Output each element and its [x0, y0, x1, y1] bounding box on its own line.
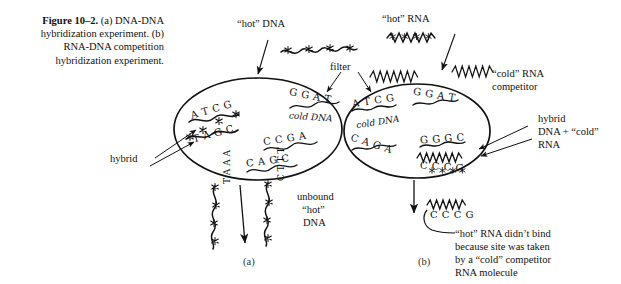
seq-a-unbound-left: T A A A — [222, 150, 233, 184]
filter-arrow-right — [358, 72, 371, 92]
panel-label-b: (b) — [418, 256, 430, 267]
seq-b-output: C C C G — [430, 209, 474, 220]
figure-10-2: Figure 10–2. (a) DNA-DNA hybridization e… — [0, 0, 621, 284]
hybrid-arrow-lower — [150, 142, 194, 166]
label-filter: filter — [330, 60, 350, 73]
explanation-line3: by a “cold” competitor — [455, 253, 551, 266]
label-hybrid-dna-cold-rna-line1: hybrid — [538, 112, 565, 125]
label-cold-rna-competitor-line1: “cold” RNA — [492, 67, 544, 80]
label-hybrid-dna-cold-rna-line2: DNA + “cold” — [538, 125, 599, 138]
unbound-strand-left — [211, 183, 220, 249]
seq-a-unbound-right: C T T T — [276, 148, 287, 181]
figure-caption: Figure 10–2. (a) DNA-DNA hybridization e… — [14, 14, 164, 67]
explanation-line2: because site was taken — [455, 240, 550, 253]
label-unbound-line3: DNA — [303, 216, 326, 229]
figure-number: Figure 10–2. — [42, 15, 98, 26]
label-hot-rna: “hot” RNA — [382, 12, 430, 25]
cold-rna-competitor-strands — [370, 66, 493, 82]
label-unbound-line1: unbound — [297, 190, 334, 203]
explanation-line1: “hot” RNA didn’t bind — [455, 227, 551, 240]
panel-a-output-arrow — [240, 185, 245, 243]
label-unbound-line2: “hot” — [302, 203, 325, 216]
hot-rna-arrow — [442, 34, 455, 70]
unbound-strand-right — [264, 180, 273, 246]
hot-rna-strand — [387, 33, 435, 42]
hot-dna-strand — [281, 44, 357, 53]
label-cold-rna-competitor-line2: competitor — [492, 80, 538, 93]
label-hybrid: hybrid — [110, 152, 137, 165]
explanation-line4: RNA molecule — [455, 266, 518, 279]
hot-dna-arrow — [258, 40, 268, 74]
panel-label-a: (a) — [243, 256, 255, 267]
filter-arrow-left — [327, 72, 341, 92]
hybrid-b-arrow-upper — [479, 126, 528, 149]
label-hybrid-dna-cold-rna-line3: RNA — [538, 138, 560, 151]
label-hot-dna: “hot” DNA — [237, 17, 285, 30]
